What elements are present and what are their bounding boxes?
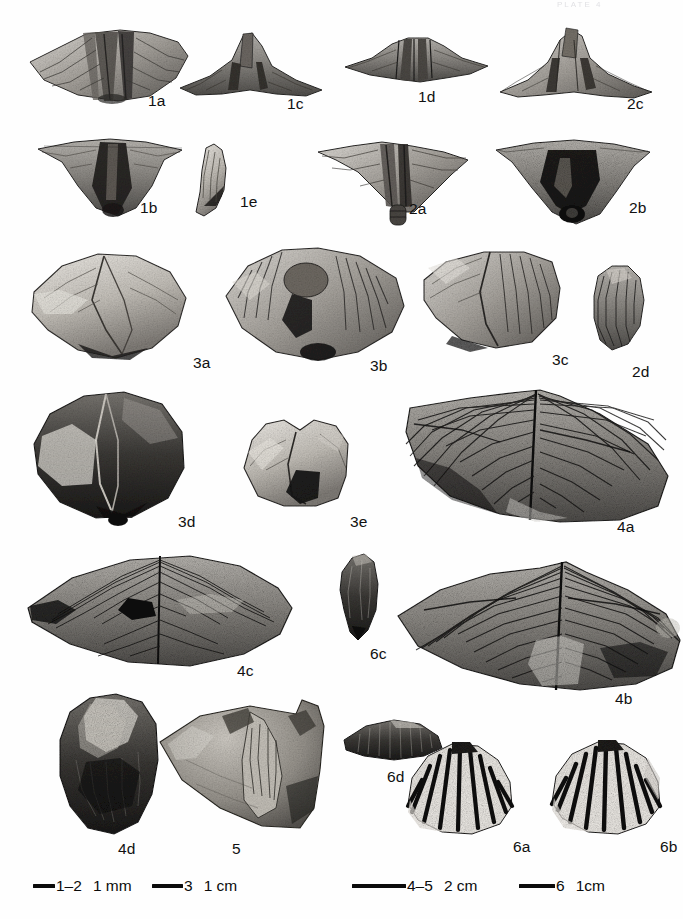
specimen-6c <box>340 554 378 640</box>
specimen-2a <box>318 142 468 225</box>
scale-bar-figure-id: 3 <box>184 877 193 895</box>
figure-label-2d: 2d <box>632 363 650 381</box>
figure-label-1d: 1d <box>418 88 436 106</box>
scale-bar-figure-id: 4–5 <box>407 877 433 895</box>
specimen-1e <box>196 144 226 216</box>
scale-bar-unit: 1 cm <box>204 877 238 895</box>
scale-bar-3: 4–52 cm <box>352 874 477 898</box>
scale-bar-unit: 1 mm <box>93 877 132 895</box>
figure-label-1c: 1c <box>287 95 304 113</box>
figure-label-1a: 1a <box>148 92 166 110</box>
specimen-6b <box>552 740 660 834</box>
figure-label-4a: 4a <box>617 518 635 536</box>
scale-bar-4: 61cm <box>519 874 605 898</box>
specimen-3a <box>32 254 186 360</box>
specimen-4d <box>60 694 158 834</box>
figure-label-2a: 2a <box>409 200 427 218</box>
scale-bar-line <box>352 884 406 887</box>
specimen-4c <box>28 556 292 666</box>
specimen-2c <box>500 28 652 98</box>
specimen-1d <box>345 38 488 82</box>
specimen-1b <box>38 139 182 217</box>
figure-label-6a: 6a <box>513 838 531 856</box>
specimen-6d <box>344 720 442 760</box>
specimen-3d <box>34 392 184 526</box>
specimen-5 <box>160 700 324 828</box>
specimen-photographs <box>0 0 683 870</box>
figure-label-3c: 3c <box>552 351 569 369</box>
figure-label-3b: 3b <box>370 357 388 375</box>
scale-bar-unit: 2 cm <box>444 877 478 895</box>
specimen-3e <box>244 420 348 506</box>
specimen-2b <box>496 140 650 224</box>
figure-label-1e: 1e <box>240 193 258 211</box>
scale-bar-line <box>152 884 183 887</box>
figure-label-4b: 4b <box>615 690 633 708</box>
figure-label-3a: 3a <box>193 354 211 372</box>
figure-label-3d: 3d <box>178 513 196 531</box>
specimen-3b <box>226 248 404 361</box>
specimen-1c <box>180 33 322 96</box>
specimen-3c <box>424 252 560 352</box>
figure-label-6d: 6d <box>387 768 405 786</box>
figure-label-4d: 4d <box>118 840 136 858</box>
specimen-2d <box>594 266 644 350</box>
scale-bar-figure-id: 6 <box>556 877 565 895</box>
figure-label-5: 5 <box>232 840 241 858</box>
figure-label-4c: 4c <box>237 662 254 680</box>
figure-label-6c: 6c <box>370 645 387 663</box>
scale-bar-1: 1–21 mm <box>33 874 132 898</box>
figure-label-2c: 2c <box>627 95 644 113</box>
figure-label-2b: 2b <box>629 199 647 217</box>
figure-label-3e: 3e <box>350 513 368 531</box>
scale-bar-figure-id: 1–2 <box>56 877 82 895</box>
scale-bar-legend: 1–21 mm31 cm4–52 cm61cm <box>0 874 683 904</box>
specimen-4b <box>398 562 680 690</box>
scale-bar-line <box>519 884 555 887</box>
specimen-4a <box>406 390 668 522</box>
fossil-plate-figure: PLATE 4 <box>0 0 683 919</box>
scale-bar-line <box>33 884 55 887</box>
figure-label-1b: 1b <box>140 199 158 217</box>
scale-bar-unit: 1cm <box>576 877 605 895</box>
scale-bar-2: 31 cm <box>152 874 237 898</box>
figure-label-6b: 6b <box>660 838 678 856</box>
